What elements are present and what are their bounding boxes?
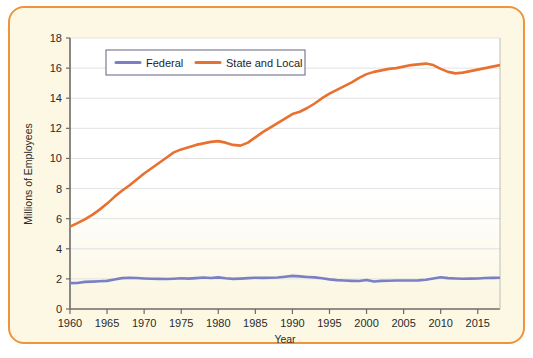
y-tick-label: 12	[50, 122, 62, 134]
y-tick-label: 18	[50, 32, 62, 44]
legend-label-federal: Federal	[146, 57, 183, 69]
y-tick-label: 14	[50, 92, 62, 104]
y-tick-label: 0	[56, 303, 62, 315]
x-tick-label: 1995	[317, 317, 341, 329]
x-tick-label: 2015	[466, 317, 490, 329]
y-tick-label: 4	[56, 243, 62, 255]
x-tick-label: 1975	[169, 317, 193, 329]
x-tick-label: 2010	[428, 317, 452, 329]
x-tick-label: 1985	[243, 317, 267, 329]
y-axis-title: Millions of Employees	[22, 123, 34, 225]
y-tick-label: 2	[56, 273, 62, 285]
x-tick-label: 1990	[280, 317, 304, 329]
x-tick-label: 2000	[354, 317, 378, 329]
plot-background	[70, 38, 500, 309]
y-tick-label: 6	[56, 213, 62, 225]
figure-card: 024681012141618 196019651970197519801985…	[8, 6, 525, 344]
x-axis-title: Year	[274, 333, 296, 345]
chart-legend: Federal State and Local	[106, 50, 305, 75]
x-axis-ticks: 1960196519701975198019851990199520002005…	[58, 309, 490, 329]
x-tick-label: 2005	[391, 317, 415, 329]
legend-label-state-and-local: State and Local	[226, 57, 302, 69]
y-axis-ticks: 024681012141618	[50, 32, 70, 315]
y-tick-label: 16	[50, 62, 62, 74]
x-tick-label: 1980	[206, 317, 230, 329]
y-tick-label: 8	[56, 183, 62, 195]
y-tick-label: 10	[50, 152, 62, 164]
x-tick-label: 1970	[132, 317, 156, 329]
x-tick-label: 1965	[95, 317, 119, 329]
employment-line-chart: 024681012141618 196019651970197519801985…	[10, 8, 527, 346]
x-tick-label: 1960	[58, 317, 82, 329]
chart-stage: 024681012141618 196019651970197519801985…	[10, 8, 527, 346]
